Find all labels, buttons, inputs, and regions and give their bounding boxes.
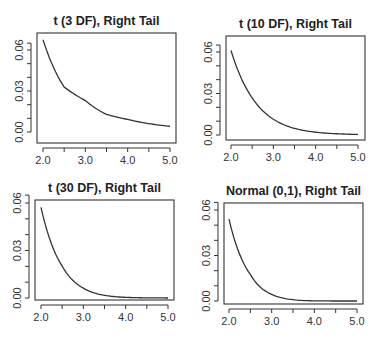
y-tick-label: 0.06 [200, 199, 212, 220]
x-tick-label: 2.0 [33, 311, 48, 323]
x-tick-label: 5.0 [349, 315, 364, 327]
x-tick-label: 3.0 [78, 154, 93, 166]
plot-area [224, 203, 363, 304]
x-tick-label: 5.0 [350, 151, 365, 163]
x-tick-label: 2.0 [35, 154, 50, 166]
panel-t3-right-tail: t (3 DF), Right Tail 0.000.030.062.03.04… [13, 14, 178, 166]
tail-density-figure: t (3 DF), Right Tail 0.000.030.062.03.04… [0, 0, 380, 342]
y-tick-label: 0.00 [11, 287, 23, 308]
panel-normal-right-tail: Normal (0,1), Right Tail 0.000.030.062.0… [200, 184, 365, 327]
y-tick-label: 0.03 [200, 245, 212, 266]
y-tick-label: 0.00 [202, 124, 214, 145]
density-curve [41, 207, 168, 298]
x-tick-label: 3.0 [266, 151, 281, 163]
x-tick-label: 4.0 [118, 311, 133, 323]
y-tick-label: 0.03 [13, 80, 25, 101]
density-curve [229, 219, 357, 301]
y-tick-label: 0.06 [202, 41, 214, 62]
density-curve [43, 40, 170, 127]
y-tick-label: 0.00 [13, 121, 25, 142]
plot-area [37, 33, 176, 143]
y-tick-label: 0.00 [200, 290, 212, 311]
x-tick-label: 3.0 [264, 315, 279, 327]
panel-title: t (3 DF), Right Tail [53, 14, 159, 28]
x-tick-label: 2.0 [223, 151, 238, 163]
panel-title: Normal (0,1), Right Tail [226, 184, 361, 198]
y-tick-label: 0.06 [13, 39, 25, 60]
panel-t10-right-tail: t (10 DF), Right Tail 0.000.030.062.03.0… [202, 17, 366, 163]
x-tick-label: 5.0 [160, 311, 175, 323]
panel-t30-right-tail: t (30 DF), Right Tail 0.000.030.062.03.0… [11, 181, 176, 323]
x-tick-label: 4.0 [120, 154, 135, 166]
plot-area [35, 200, 174, 300]
y-tick-label: 0.03 [202, 83, 214, 104]
panel-title: t (10 DF), Right Tail [239, 17, 352, 31]
panel-title: t (30 DF), Right Tail [48, 181, 161, 195]
y-tick-label: 0.06 [11, 192, 23, 213]
y-tick-label: 0.03 [11, 240, 23, 261]
x-tick-label: 3.0 [76, 311, 91, 323]
x-tick-label: 2.0 [221, 315, 236, 327]
x-tick-label: 5.0 [162, 154, 177, 166]
density-curve [231, 50, 358, 134]
x-tick-label: 4.0 [307, 315, 322, 327]
x-tick-label: 4.0 [308, 151, 323, 163]
